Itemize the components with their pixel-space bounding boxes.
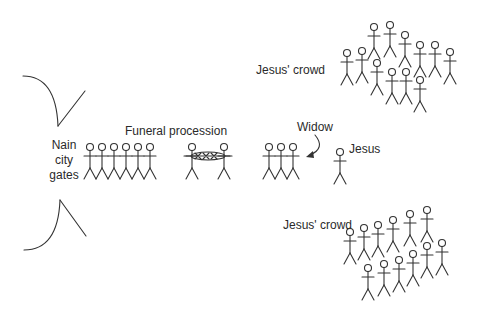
crowd-bottom-figure (387, 217, 399, 253)
mourner-figure (120, 144, 132, 180)
diagram-svg: Nain city gates Funeral procession Widow… (0, 0, 477, 311)
crowd-bottom-figure (404, 211, 416, 247)
crowd-top-figure (414, 42, 426, 78)
crowd-top-figure (384, 22, 396, 58)
crowd-bottom-figure (393, 257, 405, 293)
jesus-label: Jesus (349, 142, 380, 156)
crowd-bottom-figure (362, 265, 374, 301)
widow-group-figure (287, 144, 299, 180)
crowd-bottom-label: Jesus' crowd (283, 218, 352, 232)
funeral-procession-label: Funeral procession (125, 124, 227, 138)
crowd-bottom-figure (344, 229, 356, 265)
crowd-top-figure (341, 50, 353, 86)
crowd-top-figure (386, 69, 398, 105)
widow-label: Widow (297, 120, 333, 134)
jesus-figure (334, 149, 346, 185)
gates-label-line2: city (55, 153, 73, 167)
crowd-top-figure (356, 48, 368, 84)
crowd-top-figure (400, 69, 412, 105)
widow-group-figure (275, 144, 287, 180)
crowd-bottom-figure (421, 207, 433, 243)
bearer-figure (218, 144, 230, 180)
city-gate-bottom (24, 200, 86, 250)
crowd-top-figure (414, 77, 426, 113)
crowd-bottom-figure (421, 243, 433, 279)
widow-group-figure (263, 144, 275, 180)
widow-arrow-icon (306, 135, 319, 158)
crowd-bottom-figure (378, 261, 390, 297)
nain-funeral-diagram: Nain city gates Funeral procession Widow… (0, 0, 477, 311)
bearer-figure (186, 144, 198, 180)
gates-label-line3: gates (49, 168, 78, 182)
crowd-top-label: Jesus' crowd (256, 63, 325, 77)
mourner-figure (96, 144, 108, 180)
crowd-top-figure (368, 24, 380, 60)
crowd-top-figure (371, 60, 383, 96)
crowd-top-figure (429, 42, 441, 78)
crowd-bottom-figure (436, 240, 448, 276)
crowd-top-figure (399, 32, 411, 68)
crowd-bottom-figure (372, 222, 384, 258)
city-gate-top (23, 76, 85, 126)
mourner-figure (144, 144, 156, 180)
crowd-top-figure (444, 49, 456, 85)
crowd-bottom-figure (407, 251, 419, 287)
gates-label-line1: Nain (52, 138, 77, 152)
crowd-bottom-figure (358, 225, 370, 261)
mourner-figure (84, 144, 96, 180)
mourner-figure (132, 144, 144, 180)
mourner-figure (108, 144, 120, 180)
